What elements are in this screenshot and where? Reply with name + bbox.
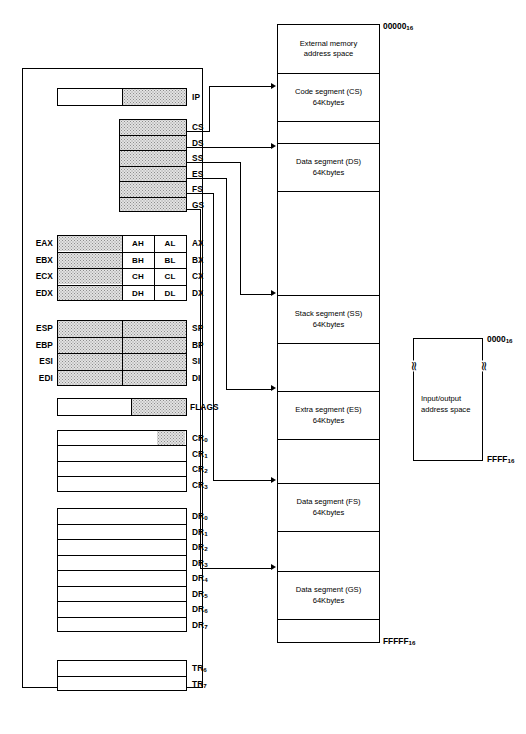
connector-es-h1 bbox=[187, 178, 227, 179]
connector-es-h2 bbox=[226, 389, 272, 390]
connector-ss-v bbox=[240, 162, 241, 295]
external-memory-column: External memory address space Code segme… bbox=[277, 24, 380, 643]
memory-segment-gap-1 bbox=[278, 121, 379, 143]
memory-bottom-address-label: FFFFF16 bbox=[383, 637, 415, 646]
register-label-dx: DX bbox=[192, 289, 204, 297]
connector-gs-v bbox=[200, 209, 201, 569]
memory-segment-stack-ss: Stack segment (SS) 64Kbytes bbox=[278, 295, 379, 343]
ip-upper-half bbox=[58, 89, 122, 105]
register-label-cx: CX bbox=[192, 272, 204, 280]
connector-gs-h2 bbox=[200, 568, 272, 569]
register-label-bx: BX bbox=[192, 256, 204, 264]
connector-fs-h1 bbox=[187, 193, 214, 194]
debug-divider-3 bbox=[57, 555, 187, 556]
cr0-shaded-field bbox=[157, 431, 185, 445]
io-address-space-box: Input/output address space bbox=[413, 338, 483, 461]
io-top-address-label: 000016 bbox=[487, 335, 513, 344]
register-cell-dl: DL bbox=[154, 286, 186, 301]
ip-lower-half bbox=[122, 89, 186, 105]
register-label-tr7: TR7 bbox=[192, 680, 207, 689]
connector-cs-h1 bbox=[187, 131, 210, 132]
io-break-mark-right: ≈ bbox=[477, 361, 490, 372]
debug-divider-2 bbox=[57, 539, 187, 540]
flags-upper-half bbox=[58, 399, 131, 415]
control-divider-2 bbox=[57, 461, 187, 462]
register-cell-ch: CH bbox=[122, 269, 154, 284]
connector-fs-arrow bbox=[271, 477, 276, 483]
edx-extension-shading bbox=[58, 286, 122, 300]
control-divider-3 bbox=[57, 476, 187, 477]
debug-divider-7 bbox=[57, 617, 187, 618]
diagram-canvas: IP CS DS SS ES FS GS AH AL BH BL CH CL D… bbox=[0, 0, 526, 734]
register-label-eax: EAX bbox=[26, 239, 53, 247]
connector-ds-h bbox=[187, 147, 271, 148]
register-label-ebx: EBX bbox=[26, 256, 53, 264]
connector-cs-arrow bbox=[271, 83, 276, 89]
register-label-edx: EDX bbox=[26, 289, 53, 297]
segment-divider-1 bbox=[119, 135, 187, 136]
segment-divider-5 bbox=[119, 197, 187, 198]
memory-segment-data-ds: Data segment (DS) 64Kbytes bbox=[278, 143, 379, 191]
memory-segment-external: External memory address space bbox=[278, 25, 379, 73]
flags-lower-half bbox=[131, 399, 186, 415]
memory-segment-gap-2 bbox=[278, 191, 379, 295]
register-cell-ah: AH bbox=[122, 236, 154, 251]
connector-cs-h2 bbox=[209, 86, 272, 87]
register-label-flags: FLAGS bbox=[190, 403, 219, 411]
register-cell-dh: DH bbox=[122, 286, 154, 301]
debug-divider-1 bbox=[57, 524, 187, 525]
register-cell-bl: BL bbox=[154, 253, 186, 268]
memory-segment-gap-3 bbox=[278, 343, 379, 391]
connector-gs-arrow bbox=[271, 564, 276, 570]
register-cell-bh: BH bbox=[122, 253, 154, 268]
register-label-tr6: TR6 bbox=[192, 664, 207, 673]
memory-segment-gap-5 bbox=[278, 531, 379, 571]
register-label-esi: ESI bbox=[26, 357, 53, 365]
control-divider-1 bbox=[57, 445, 187, 446]
pointer-vertical-divider bbox=[122, 320, 123, 386]
connector-ss-h1 bbox=[187, 162, 241, 163]
connector-fs-h2 bbox=[213, 480, 272, 481]
register-label-ax: AX bbox=[192, 239, 204, 247]
register-label-edi: EDI bbox=[26, 374, 53, 382]
register-label-ecx: ECX bbox=[26, 272, 53, 280]
debug-divider-6 bbox=[57, 601, 187, 602]
register-label-sp: SP bbox=[192, 324, 203, 332]
register-label-ebp: EBP bbox=[26, 341, 53, 349]
connector-cs-v bbox=[209, 86, 210, 132]
register-label-dr4: DR4 bbox=[192, 574, 208, 583]
debug-divider-5 bbox=[57, 586, 187, 587]
ebx-extension-shading bbox=[58, 253, 122, 268]
segment-divider-2 bbox=[119, 150, 187, 151]
register-label-bp: BP bbox=[192, 341, 204, 349]
ecx-extension-shading bbox=[58, 269, 122, 284]
connector-ss-h2 bbox=[240, 294, 272, 295]
io-address-space-label: Input/output address space bbox=[414, 394, 482, 415]
segment-divider-4 bbox=[119, 181, 187, 182]
register-cell-cl: CL bbox=[154, 269, 186, 284]
register-label-dr5: DR5 bbox=[192, 590, 208, 599]
register-ip bbox=[57, 88, 187, 106]
segment-divider-3 bbox=[119, 166, 187, 167]
connector-ss-arrow bbox=[271, 290, 276, 296]
memory-segment-gap-6 bbox=[278, 619, 379, 642]
register-label-ip: IP bbox=[192, 93, 200, 101]
connector-fs-v bbox=[213, 193, 214, 481]
register-label-esp: ESP bbox=[26, 324, 53, 332]
memory-top-address-label: 0000016 bbox=[383, 22, 413, 31]
register-cell-al: AL bbox=[154, 236, 186, 251]
connector-es-arrow bbox=[271, 385, 276, 391]
register-label-dr7: DR7 bbox=[192, 621, 208, 630]
io-bottom-address-label: FFFF16 bbox=[487, 455, 514, 464]
connector-ds-arrow bbox=[271, 143, 276, 149]
memory-segment-extra-es: Extra segment (ES) 64Kbytes bbox=[278, 391, 379, 439]
register-label-dr6: DR6 bbox=[192, 605, 208, 614]
memory-segment-data-gs: Data segment (GS) 64Kbytes bbox=[278, 571, 379, 619]
eax-extension-shading bbox=[58, 236, 122, 251]
register-flags bbox=[57, 398, 187, 416]
memory-segment-data-fs: Data segment (FS) 64Kbytes bbox=[278, 483, 379, 531]
memory-segment-code-cs: Code segment (CS) 64Kbytes bbox=[278, 73, 379, 121]
memory-segment-gap-4 bbox=[278, 439, 379, 483]
test-divider-1 bbox=[57, 676, 187, 677]
debug-divider-4 bbox=[57, 570, 187, 571]
